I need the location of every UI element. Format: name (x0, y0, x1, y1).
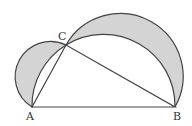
label-b: B (173, 111, 181, 122)
label-c: C (58, 31, 66, 42)
lune-ac (15, 41, 66, 107)
geometry-figure (0, 0, 192, 126)
lune-cb (66, 13, 183, 107)
label-a: A (26, 111, 34, 122)
